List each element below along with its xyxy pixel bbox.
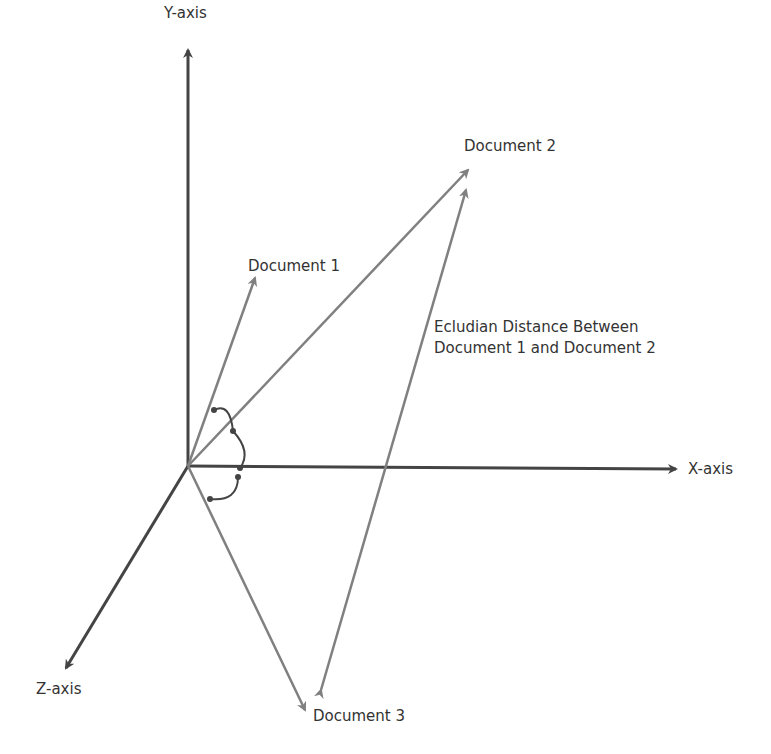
document-1-label: Document 1 [248,257,340,276]
x-axis-line [188,466,676,469]
euclidean-distance-annotation: Ecludian Distance Between Document 1 and… [434,318,656,358]
document-2-vector [188,170,468,466]
document-3-label: Document 3 [313,707,405,726]
vector-space-diagram [0,0,771,754]
annotation-line-2: Document 1 and Document 2 [434,339,656,358]
angle-arc-dots [207,407,243,502]
z-axis-line [66,466,188,668]
angle-arcs [210,408,245,499]
document-3-vector [188,466,305,710]
y-axis-label: Y-axis [164,4,207,23]
document-2-label: Document 2 [464,137,556,156]
x-axis-label: X-axis [688,460,733,479]
document-1-vector [188,278,255,466]
annotation-line-1: Ecludian Distance Between [434,318,656,337]
euclidean-distance-line [321,190,466,690]
z-axis-label: Z-axis [36,680,81,699]
